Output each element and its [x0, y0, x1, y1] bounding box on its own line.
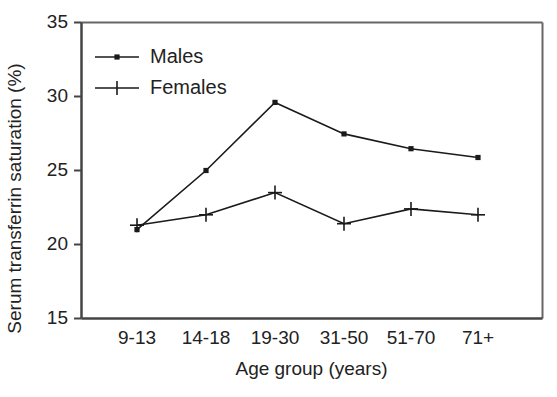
- y-axis-title: Serum transferrin saturation (%): [0, 0, 30, 397]
- legend-males-marker: [114, 54, 119, 59]
- x-tick-label: 71+: [438, 327, 518, 349]
- series-males: [134, 100, 480, 232]
- y-tick-label: 20: [28, 233, 68, 255]
- y-tick-label: 25: [28, 159, 68, 181]
- series-females: [130, 186, 485, 233]
- legend-item-males: Males: [150, 45, 203, 68]
- chart-figure: 35 30 25 20 15 9-13 14-18 19-30 31-50 51…: [0, 0, 557, 397]
- y-tick-label: 30: [28, 85, 68, 107]
- series-males-point: [408, 146, 413, 151]
- series-males-point: [475, 155, 480, 160]
- y-tick-label: 15: [28, 307, 68, 329]
- x-tick-label: 14-18: [166, 327, 246, 349]
- series-males-point: [203, 168, 208, 173]
- legend-markers: [95, 54, 139, 95]
- series-females-markers: [130, 186, 485, 233]
- x-axis-title: Age group (years): [81, 358, 542, 380]
- series-males-point: [341, 131, 346, 136]
- x-tick-label: 19-30: [235, 327, 315, 349]
- series-males-point: [272, 100, 277, 105]
- legend-item-females: Females: [150, 76, 227, 99]
- x-tick-label: 9-13: [97, 327, 177, 349]
- series-females-line: [137, 193, 478, 226]
- y-tick-label: 35: [28, 11, 68, 33]
